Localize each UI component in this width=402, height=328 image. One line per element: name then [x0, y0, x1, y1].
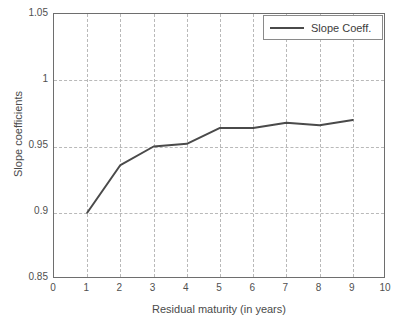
y-tick-label: 1: [42, 74, 48, 84]
x-tick-label: 5: [216, 283, 222, 293]
x-tick-label: 0: [50, 283, 56, 293]
y-tick-label: 0.95: [29, 140, 48, 150]
series-line-slope-coeff: [87, 120, 353, 213]
x-axis-tick-labels: 0 1 2 3 4 5 6 7 8 9 10: [0, 283, 402, 297]
y-tick-label: 0.9: [34, 206, 48, 216]
y-axis-title: Slope coefficients: [12, 54, 24, 214]
x-tick-label: 8: [316, 283, 322, 293]
x-axis-title: Residual maturity (in years): [53, 303, 385, 315]
x-tick-label: 3: [150, 283, 156, 293]
x-tick-label: 7: [283, 283, 289, 293]
x-tick-label: 9: [349, 283, 355, 293]
y-axis-tick-labels: 1.05 1 0.95 0.9 0.85: [0, 0, 48, 328]
y-tick-label: 1.05: [29, 8, 48, 18]
series-slope-coeff: [54, 14, 386, 279]
x-tick-label: 4: [183, 283, 189, 293]
legend-label: Slope Coeff.: [311, 22, 371, 34]
x-tick-label: 6: [249, 283, 255, 293]
legend: Slope Coeff.: [263, 15, 383, 40]
x-tick-label: 10: [379, 283, 390, 293]
plot-area: [53, 13, 385, 278]
x-tick-label: 1: [83, 283, 89, 293]
x-tick-label: 2: [117, 283, 123, 293]
y-tick-label: 0.85: [29, 272, 48, 282]
legend-line-swatch: [270, 27, 304, 29]
chart-figure: 1.05 1 0.95 0.9 0.85 0 1 2 3 4 5 6 7 8 9…: [0, 0, 402, 328]
